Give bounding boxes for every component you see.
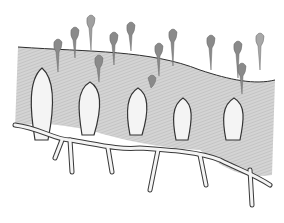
illustration [0, 0, 284, 223]
capillary-illustration [0, 0, 284, 223]
